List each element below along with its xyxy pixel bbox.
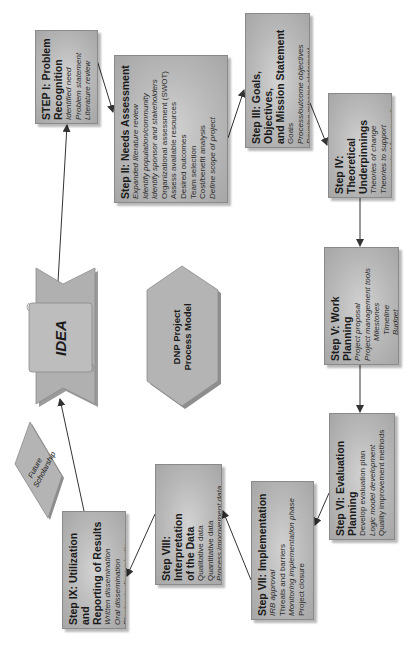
step-2-box: Step II: Needs Assessment Expanded liter… [114,55,228,203]
dnp-process-diagram: IDEA DNP Project Process Model Future Sc… [0,0,412,662]
step-4-box: Step IV: Theoretical Underpinnings Theor… [328,93,392,198]
arrow-step2-to-step3 [228,90,244,138]
step-1-box: STEP I: Problem Recognition Identified n… [35,30,98,124]
step-5-title: Step V: Work Planning [329,253,353,361]
step-6-title: Step VI: Evaluation [334,419,346,536]
step-2-title: Step II: Needs Assessment [119,61,131,199]
step-9-title: Step IX: Utilization and [67,517,91,625]
step-1-title: STEP I: Problem [40,36,52,120]
step-3-title: Step III: Goals, Objectives, [250,19,274,144]
step-5-box: Step V: Work Planning Project proposal P… [324,247,399,365]
arrow-step1-to-step2 [97,60,113,112]
step-4-title: Step IV: Theoretical [333,99,357,194]
arrow-step6-to-step7 [315,493,329,525]
arrow-step3-to-step4 [310,103,327,145]
step-7-box: Step VII: Implementation IRB approval Th… [251,481,314,620]
step-7-title: Step VII: Implementation [256,487,268,616]
step-8-box: Step VIII: Interpretation of the Data Qu… [155,464,222,585]
arrow-step8-to-step9 [127,514,155,576]
step-1-item: Literature review [83,36,93,120]
step-6-box: Step VI: Evaluation Planning Develop eva… [329,413,395,540]
step-1-item: Identified need [64,36,74,120]
step-9-box: Step IX: Utilization and Reporting of Re… [62,511,126,629]
step-8-title: Step VIII: Interpretation [160,470,184,581]
arrow-step7-to-step8 [223,511,251,580]
step-3-box: Step III: Goals, Objectives, and Mission… [245,13,310,148]
arrow-step9-to-idea [60,399,84,511]
step-1-item: Problem statement [74,36,84,120]
arrow-idea-to-step1 [58,125,67,282]
